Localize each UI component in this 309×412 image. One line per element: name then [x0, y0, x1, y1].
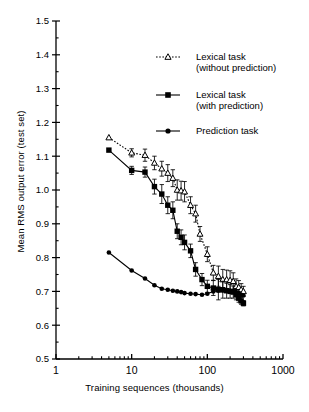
- marker-square: [159, 191, 164, 196]
- marker-square: [241, 301, 246, 306]
- marker-triangle: [188, 202, 194, 207]
- legend-label-line1: Lexical task: [196, 89, 246, 100]
- marker-square: [193, 267, 198, 272]
- x-tick-label: 100: [199, 364, 217, 376]
- marker-circle: [171, 288, 176, 293]
- x-tick-label: 10: [126, 364, 138, 376]
- marker-circle: [107, 250, 112, 255]
- marker-triangle: [215, 273, 221, 278]
- y-axis-tick-labels: 0.50.60.70.80.91.01.11.21.31.41.5: [36, 15, 49, 364]
- marker-triangle: [151, 160, 157, 165]
- y-tick-label: 0.7: [36, 286, 49, 297]
- marker-circle: [241, 293, 246, 298]
- marker-triangle: [165, 170, 171, 175]
- y-tick-label: 0.9: [36, 218, 49, 229]
- y-tick-label: 1.1: [36, 151, 49, 162]
- marker-square: [170, 208, 175, 213]
- y-tick-label: 0.6: [36, 320, 49, 331]
- chart-legend: Lexical task(without prediction)Lexical …: [156, 51, 276, 136]
- y-tick-label: 1.0: [36, 184, 49, 195]
- marker-square: [188, 248, 193, 253]
- x-axis-ticks: [56, 354, 283, 359]
- marker-square: [178, 235, 183, 240]
- marker-circle: [216, 288, 221, 293]
- y-tick-label: 0.5: [36, 353, 49, 364]
- legend-entry-2: Lexical task(with prediction): [156, 89, 263, 111]
- marker-circle: [152, 283, 157, 288]
- marker-circle: [193, 292, 198, 297]
- marker-circle: [188, 291, 193, 296]
- legend-label-line1: Lexical task: [196, 51, 246, 62]
- marker-circle: [165, 287, 170, 292]
- legend-label-line2: (with prediction): [196, 100, 263, 111]
- marker-square: [199, 277, 204, 282]
- x-axis-tick-labels: 1101001000: [53, 364, 295, 376]
- marker-circle: [159, 286, 164, 291]
- marker-circle: [175, 289, 180, 294]
- marker-triangle: [159, 166, 165, 171]
- series-1: [106, 134, 246, 296]
- y-axis-title: Mean RMS output error (test set): [15, 98, 26, 266]
- marker-square: [106, 147, 111, 152]
- x-axis-title: Training sequences (thousands): [0, 382, 309, 393]
- y-tick-label: 1.3: [36, 83, 49, 94]
- marker-circle: [205, 291, 210, 296]
- x-tick-label: 1: [53, 364, 59, 376]
- legend-entry-3: Prediction task: [156, 125, 259, 136]
- chart-canvas: 1101001000 0.50.60.70.80.91.01.11.21.31.…: [0, 0, 309, 412]
- marker-square: [175, 229, 180, 234]
- y-tick-label: 1.2: [36, 117, 49, 128]
- legend-label-line2: (without prediction): [196, 62, 276, 73]
- legend-label-line1: Prediction task: [196, 125, 259, 136]
- y-tick-label: 1.4: [36, 49, 49, 60]
- marker-square: [205, 284, 210, 289]
- marker-square: [165, 203, 170, 208]
- marker-triangle: [193, 211, 199, 216]
- marker-square: [152, 184, 157, 189]
- figure-container: 1101001000 0.50.60.70.80.91.01.11.21.31.…: [0, 0, 309, 412]
- marker-circle: [200, 292, 205, 297]
- marker-triangle: [204, 251, 210, 256]
- marker-square: [182, 240, 187, 245]
- marker-triangle: [106, 134, 112, 139]
- marker-triangle: [197, 231, 203, 236]
- marker-square: [129, 168, 134, 173]
- data-series-group: [106, 134, 246, 305]
- y-tick-label: 0.8: [36, 252, 49, 263]
- x-tick-label: 1000: [271, 364, 295, 376]
- marker-square: [142, 169, 147, 174]
- y-tick-label: 1.5: [36, 15, 49, 26]
- legend-entry-1: Lexical task(without prediction): [156, 51, 276, 73]
- marker-square: [165, 92, 171, 98]
- marker-triangle: [210, 270, 216, 275]
- marker-circle: [182, 291, 187, 296]
- marker-circle: [211, 289, 216, 294]
- series-3: [107, 250, 246, 298]
- marker-circle: [143, 276, 148, 281]
- marker-circle: [165, 128, 170, 133]
- marker-triangle: [129, 150, 135, 155]
- marker-circle: [129, 268, 134, 273]
- y-axis-ticks: [52, 21, 60, 359]
